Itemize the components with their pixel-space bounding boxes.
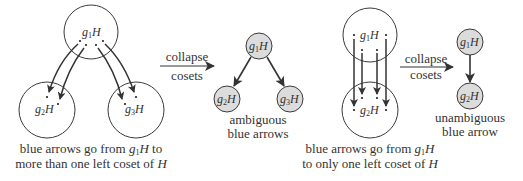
coset-g2H-label: g2H: [35, 102, 55, 117]
middle-panel: g1H g2H g3H ambiguous blue arrows: [214, 33, 303, 141]
far-right-panel: g1H g2H unambiguous blue arrow: [435, 29, 505, 139]
left-caption-line1: blue arrows go from g1H to: [20, 141, 162, 157]
coset-g1H-label-right: g1H: [360, 28, 380, 43]
element-dots: [46, 40, 137, 105]
cosets-label-1: cosets: [171, 68, 203, 83]
node-g1H-right-label: g1H: [460, 35, 480, 50]
blue-arrows-left: [49, 44, 134, 99]
collapse-arrow-2: collapse cosets: [400, 51, 453, 82]
left-panel: g1H g2H g3H blue arrows go from g1H to m…: [15, 5, 167, 171]
far-right-caption-line1: unambiguous: [435, 110, 505, 125]
element-dots-right: [353, 34, 387, 111]
cosets-label-2: cosets: [410, 67, 442, 82]
right-caption-line1: blue arrows go from g1H: [306, 141, 436, 157]
right-panel: g1H g2H blue arrows go from g1H to only …: [302, 8, 438, 171]
coset-g1H-label: g1H: [82, 25, 102, 40]
far-right-caption-line2: blue arrow: [442, 124, 499, 139]
node-g2H-right-label: g2H: [460, 89, 480, 104]
collapse-arrow-1: collapse cosets: [160, 49, 214, 83]
collapse-label-1: collapse: [166, 49, 209, 64]
coset-g3H-label: g3H: [125, 102, 145, 117]
right-caption-line2: to only one left coset of H: [302, 156, 438, 171]
node-g3H-label: g3H: [280, 92, 300, 107]
node-g1H-label: g1H: [249, 39, 269, 54]
blue-arrows-right: [354, 39, 386, 106]
middle-caption-line1: ambiguous: [229, 112, 286, 127]
node-g2H-label: g2H: [217, 92, 237, 107]
ambiguous-edges: [234, 57, 284, 86]
middle-caption-line2: blue arrows: [227, 126, 288, 141]
collapse-label-2: collapse: [405, 51, 448, 66]
left-caption-line2: more than one left coset of H: [15, 156, 167, 171]
coset-collapse-diagram: g1H g2H g3H blue arrows go from g1H to m…: [0, 0, 523, 181]
coset-g2H-label-right: g2H: [360, 103, 380, 118]
